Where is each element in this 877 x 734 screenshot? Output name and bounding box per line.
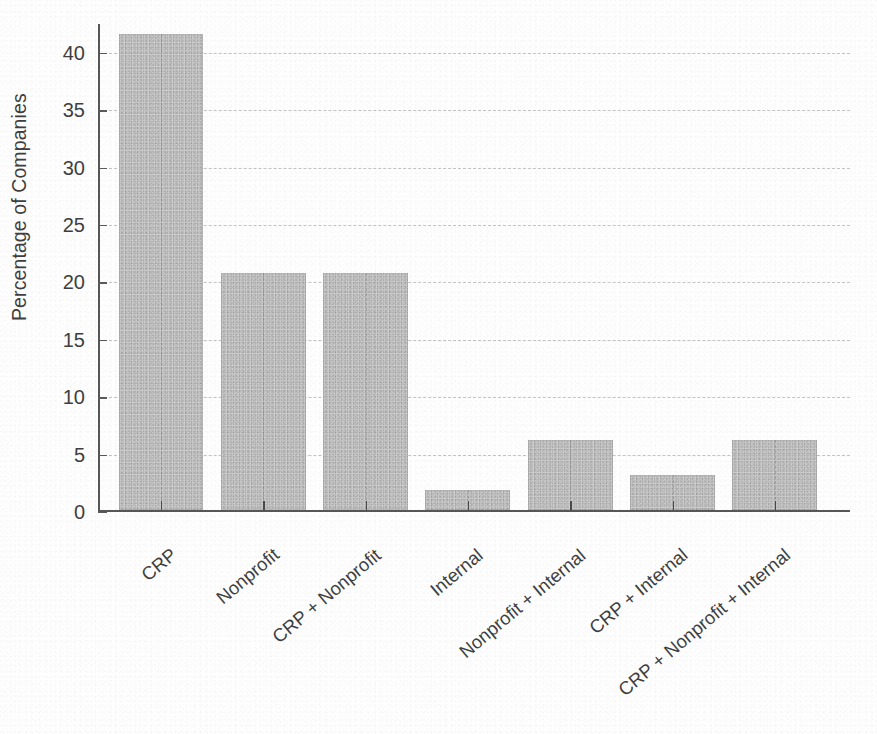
vertical-gridline (263, 273, 264, 511)
gridline (99, 53, 850, 54)
gridline (99, 397, 850, 398)
y-axis-tick-mark (98, 282, 107, 283)
y-axis-tick-label: 0 (74, 501, 85, 524)
y-axis-tick-mark (98, 455, 107, 456)
x-axis-tick-label: Internal (426, 544, 487, 601)
plot-area: 0510152025303540 CRPNonprofitCRP + Nonpr… (98, 24, 850, 512)
x-axis-tick-label: CRP + Nonprofit (268, 544, 385, 648)
y-axis-tick-mark (98, 225, 107, 226)
y-axis-tick-label: 30 (63, 156, 85, 179)
x-axis-tick-mark (366, 501, 367, 510)
gridline (99, 168, 850, 169)
x-axis-tick-mark (468, 501, 469, 510)
y-axis-tick-label: 5 (74, 443, 85, 466)
gridline (99, 110, 850, 111)
y-axis-tick-mark (98, 512, 107, 513)
x-axis-tick-label: CRP + Nonprofit + Internal (614, 544, 795, 701)
y-axis-tick-label: 10 (63, 386, 85, 409)
y-axis-tick-label: 35 (63, 99, 85, 122)
x-axis-tick-mark (161, 501, 162, 510)
gridline (99, 225, 850, 226)
x-axis-tick-label: Nonprofit (212, 544, 284, 609)
vertical-gridline (366, 273, 367, 511)
y-axis-tick-label: 25 (63, 213, 85, 236)
bar-chart-figure: Percentage of Companies 0510152025303540… (0, 0, 877, 734)
y-axis-tick-mark (98, 110, 107, 111)
vertical-gridline (775, 440, 776, 510)
y-axis-tick-label: 40 (63, 41, 85, 64)
y-axis-tick-mark (98, 397, 107, 398)
gridline (99, 282, 850, 283)
y-axis-tick-mark (98, 53, 107, 54)
x-axis-tick-mark (570, 501, 571, 510)
gridline (99, 340, 850, 341)
x-axis-tick-label: CRP + Internal (585, 544, 692, 639)
x-axis-tick-mark (673, 501, 674, 510)
y-axis-label: Percentage of Companies (8, 0, 44, 321)
y-axis-spine (98, 24, 100, 512)
y-axis-tick-label: 15 (63, 328, 85, 351)
vertical-gridline (570, 440, 571, 510)
x-axis-spine (98, 510, 850, 512)
y-axis-tick-mark (98, 340, 107, 341)
vertical-gridline (161, 34, 162, 511)
y-axis-tick-mark (98, 168, 107, 169)
y-axis-tick-label: 20 (63, 271, 85, 294)
x-axis-tick-mark (263, 501, 264, 510)
x-axis-tick-label: CRP (137, 544, 181, 586)
x-axis-tick-mark (775, 501, 776, 510)
